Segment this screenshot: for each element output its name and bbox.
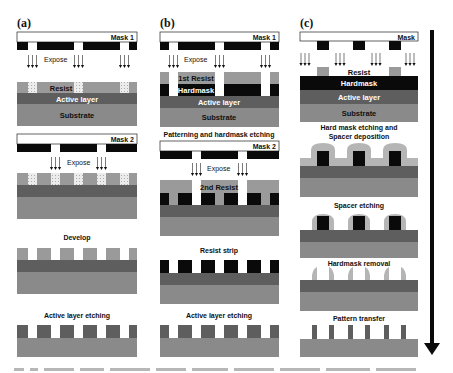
mask-label: Mask [397,34,415,41]
panel-b-mask2: Mask 2 [160,141,279,159]
caption-remnant [14,368,416,371]
panel-c-stack1: Resist Hardmask Active layer Substrate [300,67,418,122]
expose-arrows-icon [299,53,415,66]
expose-label: Expose [44,56,67,64]
substrate-label: Substrate [60,111,95,120]
expose-label: Expose [184,56,207,64]
hardmask-label: Hardmask [341,79,378,88]
expose-arrows-icon [27,55,130,68]
panel-c: (c) Mask Resist Hardmask Active layer Su… [299,16,418,357]
mask2-label: Mask 2 [111,136,134,143]
panel-b-stack3 [160,260,279,304]
panel-c-stack4 [300,267,418,311]
active-layer-etching-label: Active layer etching [186,312,252,320]
process-down-arrow-icon [424,30,440,355]
panel-c-stack2 [300,143,418,197]
spacer-etching-label: Spacer etching [334,202,384,210]
hardmask-removal-label: Hardmask removal [328,260,391,267]
panel-a-mask1: Mask 1 [17,32,137,50]
panel-c-stack5 [300,325,418,357]
panel-c-label: (c) [300,16,313,30]
second-resist-label: 2nd Resist [200,183,238,192]
mask2-label: Mask 2 [253,143,276,150]
panel-c-stack3 [300,214,418,258]
hardmask-label: Hardmask [178,86,215,95]
active-layer-etching-label: Active layer etching [44,312,110,320]
first-resist-label: 1st Resist [178,74,214,83]
spacer-deposition-label: Spacer deposition [329,133,390,141]
substrate-label: Substrate [342,109,377,118]
panel-b-stack2: 2nd Resist [160,180,279,236]
panel-a-label: (a) [17,16,31,30]
sadp-process-diagram: (a) Mask 1 Expose Resist Active layer [0,0,453,373]
panel-c-mask: Mask [300,32,418,50]
panel-a-stack3 [17,248,137,294]
mask1-label: Mask 1 [111,34,134,41]
panel-b: (b) Mask 1 Expose 1st Resist Hardmask Ac [160,16,279,357]
substrate-label: Substrate [202,113,237,122]
pattern-transfer-label: Pattern transfer [333,315,385,322]
panel-a: (a) Mask 1 Expose Resist Active layer [17,16,137,357]
mask1-label: Mask 1 [253,34,276,41]
expose-label: Expose [207,165,230,173]
active-layer-label: Active layer [198,98,240,107]
panel-b-stack1: 1st Resist Hardmask Active layer Substra… [160,72,279,127]
panel-a-mask2: Mask 2 [17,134,137,152]
resist-label: Resist [50,84,73,93]
resist-strip-label: Resist strip [200,247,238,255]
hardmask-etching-label: Hard mask etching and [320,124,397,132]
panel-b-label: (b) [160,16,175,30]
patterning-hardmask-etching-label: Patterning and hardmask etching [164,131,275,139]
panel-a-stack1: Resist Active layer Substrate [17,82,137,126]
panel-b-stack4 [160,325,279,357]
panel-a-stack4 [17,325,137,357]
panel-a-stack2 [17,173,137,219]
develop-label: Develop [63,234,90,242]
panel-b-mask1: Mask 1 [160,32,279,50]
expose-label: Expose [67,159,90,167]
active-layer-label: Active layer [56,95,98,104]
resist-label: Resist [348,68,371,77]
active-layer-label: Active layer [338,93,380,102]
